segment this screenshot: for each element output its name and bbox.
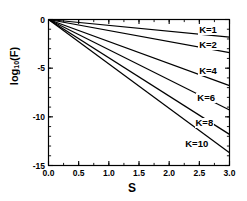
y-tick-label: -15 (20, 161, 45, 171)
y-tick-label: 0 (20, 15, 45, 25)
y-axis-label: log10(F) (8, 30, 20, 102)
series-label-k-10: K=10 (184, 139, 209, 149)
y-tick-label: -10 (20, 112, 45, 122)
y-axis-label-subscript: 10 (13, 61, 20, 69)
y-axis-label-base: log (8, 69, 20, 86)
x-tick-label: 1.0 (103, 168, 115, 178)
chart-figure: log10(F) S 0.00.51.01.52.02.53.0 0-5-10-… (0, 0, 247, 201)
series-label-k-2: K=2 (198, 40, 218, 50)
series-label-k-6: K=6 (196, 93, 216, 103)
series-label-k-8: K=8 (195, 118, 215, 128)
x-tick-label: 1.5 (133, 168, 145, 178)
x-tick-label: 0.5 (73, 168, 85, 178)
x-tick-label: 3.0 (224, 168, 236, 178)
series-label-k-1: K=1 (198, 25, 218, 35)
y-tick-label: -5 (20, 63, 45, 73)
y-axis-label-tail: (F) (8, 47, 20, 61)
x-tick-label: 2.0 (163, 168, 175, 178)
x-axis-label: S (128, 181, 136, 195)
series-label-k-4: K=4 (198, 66, 218, 76)
x-tick-label: 2.5 (193, 168, 205, 178)
